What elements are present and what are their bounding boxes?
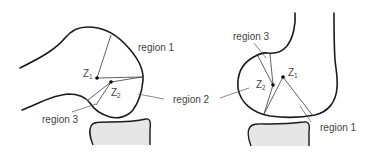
right-z1-label: Z1 [288, 67, 298, 79]
right-region1-label: region 1 [320, 122, 357, 133]
right-panel: Z1 Z2 region 3 region 1 [220, 13, 357, 146]
right-z2-point [271, 83, 275, 87]
left-region3-label: region 3 [42, 114, 79, 125]
right-region1-leader [300, 106, 311, 122]
left-region2-label: region 2 [173, 94, 210, 105]
left-region1-label: region 1 [138, 42, 175, 53]
left-z2-label: Z2 [111, 87, 121, 99]
left-z1-point [95, 76, 99, 80]
right-z1-point [281, 75, 285, 79]
left-z1-label: Z1 [83, 68, 93, 80]
joint-region-diagram: Z1 Z2 region 1 region 2 region 3 Z1 Z2 r… [0, 0, 372, 152]
right-z2-label: Z2 [256, 79, 266, 91]
right-bone-outline-front [238, 13, 337, 117]
left-tibia [90, 119, 150, 145]
left-panel: Z1 Z2 region 1 region 2 region 3 [20, 27, 210, 145]
right-rays [258, 54, 313, 116]
left-z2-point [109, 80, 113, 84]
left-region2-leader [138, 94, 164, 99]
right-region2-leader [220, 88, 249, 98]
right-region3-label: region 3 [233, 31, 270, 42]
left-bone-outline [20, 27, 143, 118]
right-tibia [248, 122, 309, 146]
left-region3-leader [72, 104, 96, 112]
